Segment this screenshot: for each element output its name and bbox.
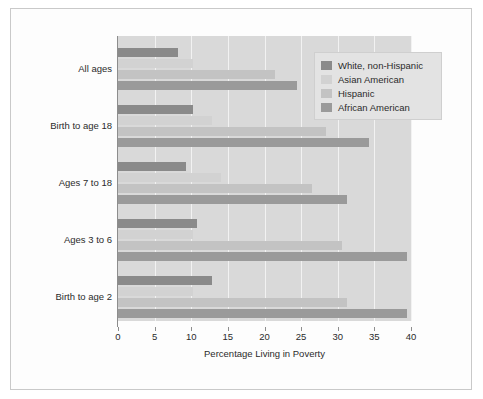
category-label-3: Ages 3 to 6 [64, 234, 112, 245]
legend-item-3: African American [321, 100, 435, 114]
bar [118, 127, 326, 136]
x-tick-label: 25 [296, 331, 307, 342]
bar [118, 184, 312, 193]
category-label-4: Birth to age 2 [55, 291, 112, 302]
bar [118, 70, 275, 79]
bar [118, 138, 369, 147]
legend-label: Hispanic [338, 88, 374, 99]
legend-label: African American [338, 102, 410, 113]
legend-swatch-icon [321, 103, 332, 112]
legend-label: White, non-Hispanic [338, 60, 423, 71]
category-label-1: Birth to age 18 [50, 120, 112, 131]
x-tick-label: 20 [259, 331, 270, 342]
category-labels: All agesBirth to age 18Ages 7 to 18Ages … [14, 36, 112, 321]
x-tick-label: 40 [406, 331, 417, 342]
x-axis-title: Percentage Living in Poverty [118, 348, 411, 359]
bar [118, 276, 212, 285]
bar [118, 252, 407, 261]
x-tick-label: 5 [152, 331, 157, 342]
bar [118, 59, 193, 68]
bar [118, 195, 347, 204]
bar [118, 105, 193, 114]
legend-item-1: Asian American [321, 72, 435, 86]
x-tick-label: 0 [115, 331, 120, 342]
x-axis-ticks: 0510152025303540 [118, 327, 411, 343]
bar [118, 230, 193, 239]
legend-swatch-icon [321, 75, 332, 84]
bar [118, 81, 297, 90]
x-tick-label: 35 [369, 331, 380, 342]
bar [118, 298, 347, 307]
legend-item-0: White, non-Hispanic [321, 58, 435, 72]
legend-swatch-icon [321, 61, 332, 70]
bar [118, 287, 193, 296]
x-tick-label: 30 [332, 331, 343, 342]
bar [118, 116, 212, 125]
legend-swatch-icon [321, 89, 332, 98]
bar [118, 173, 221, 182]
bar [118, 219, 197, 228]
category-label-2: Ages 7 to 18 [59, 177, 112, 188]
bar [118, 162, 186, 171]
bar [118, 241, 342, 250]
bar [118, 309, 407, 318]
bar [118, 48, 178, 57]
legend: White, non-HispanicAsian AmericanHispani… [314, 52, 442, 120]
y-axis-line [117, 36, 118, 327]
legend-label: Asian American [338, 74, 404, 85]
gridline [301, 36, 302, 321]
x-tick-label: 15 [223, 331, 234, 342]
legend-item-2: Hispanic [321, 86, 435, 100]
category-label-0: All ages [78, 63, 112, 74]
gridline [265, 36, 266, 321]
chart-figure: All agesBirth to age 18Ages 7 to 18Ages … [0, 0, 483, 399]
gridline [228, 36, 229, 321]
x-tick-label: 10 [186, 331, 197, 342]
